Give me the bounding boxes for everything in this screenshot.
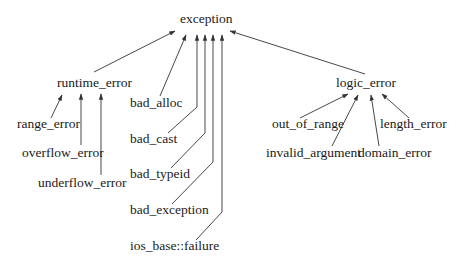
node-exception: exception bbox=[180, 12, 232, 26]
node-overflow-error: overflow_error bbox=[22, 146, 104, 160]
edge-range-error-to-runtime-error bbox=[51, 95, 62, 118]
edge-bad-cast-to-exception bbox=[168, 35, 197, 133]
node-out-of-range: out_of_range bbox=[272, 117, 344, 131]
inheritance-edges bbox=[0, 0, 456, 265]
node-bad-cast: bad_cast bbox=[130, 132, 177, 146]
node-runtime-error: runtime_error bbox=[57, 76, 132, 90]
edge-runtime-error-to-exception bbox=[94, 31, 175, 72]
node-ios-base-failure: ios_base::failure bbox=[130, 239, 219, 253]
node-range-error: range_error bbox=[17, 117, 80, 131]
node-invalid-argument: invalid_argument bbox=[266, 146, 361, 160]
edge-out-of-range-to-logic-error bbox=[300, 94, 348, 118]
edge-logic-error-to-exception bbox=[230, 31, 365, 74]
edge-length-error-to-logic-error bbox=[382, 94, 409, 118]
node-length-error: length_error bbox=[380, 117, 447, 131]
node-bad-typeid: bad_typeid bbox=[130, 167, 190, 181]
exception-hierarchy-diagram: exception runtime_error logic_error bad_… bbox=[0, 0, 456, 265]
node-bad-alloc: bad_alloc bbox=[130, 96, 182, 110]
node-domain-error: domain_error bbox=[358, 146, 431, 160]
node-underflow-error: underflow_error bbox=[38, 176, 126, 190]
node-logic-error: logic_error bbox=[336, 76, 396, 90]
edge-domain-error-to-logic-error bbox=[371, 95, 379, 146]
node-bad-exception: bad_exception bbox=[130, 203, 209, 217]
edge-bad-alloc-to-exception bbox=[160, 35, 186, 96]
